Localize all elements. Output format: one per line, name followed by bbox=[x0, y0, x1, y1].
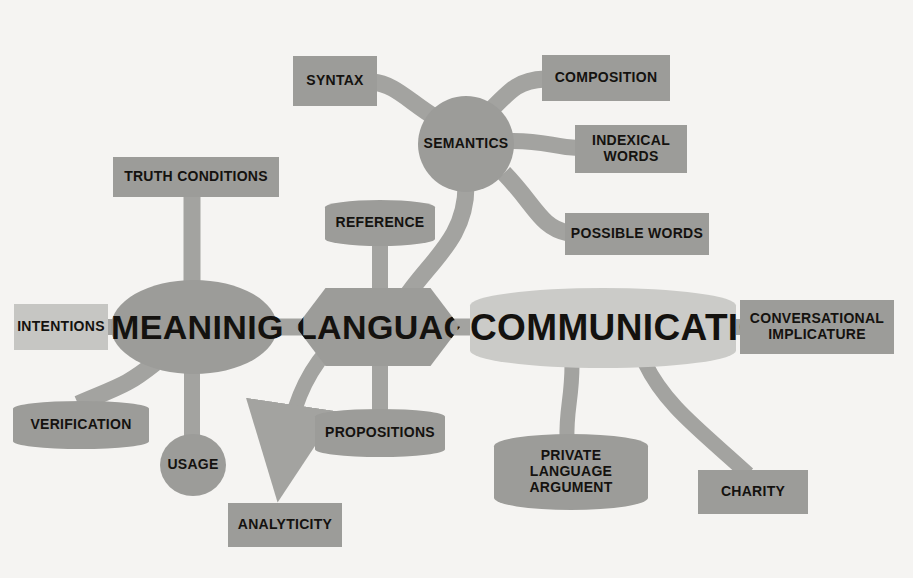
node-verification-label: VERIFICATION bbox=[13, 417, 149, 433]
node-semantics[interactable]: SEMANTICS bbox=[418, 96, 514, 192]
node-verification[interactable]: VERIFICATION bbox=[13, 401, 149, 449]
node-intentions-label: INTENTIONS bbox=[14, 319, 108, 335]
node-propositions-label: PROPOSITIONS bbox=[315, 425, 445, 441]
node-meaning[interactable]: MEANINIG bbox=[111, 280, 277, 374]
node-private-language-argument-label: PRIVATE LANGUAGE ARGUMENT bbox=[494, 448, 648, 495]
edge-meaning-verification bbox=[78, 363, 155, 404]
mindmap-canvas: SEMANTICS SYNTAX COMPOSITION INDEXICAL W… bbox=[0, 0, 913, 578]
node-charity[interactable]: CHARITY bbox=[698, 470, 808, 514]
edge-communication-private-language bbox=[567, 364, 572, 440]
edge-semantics-indexical bbox=[508, 141, 578, 148]
node-language-label: LANGUAGE bbox=[296, 308, 460, 346]
node-truth-conditions[interactable]: TRUTH CONDITIONS bbox=[113, 157, 279, 197]
node-conversational-implicature[interactable]: CONVERSATIONAL IMPLICATURE bbox=[740, 300, 894, 354]
node-syntax-label: SYNTAX bbox=[293, 73, 377, 89]
node-language[interactable]: LANGUAGE bbox=[296, 288, 460, 366]
node-propositions[interactable]: PROPOSITIONS bbox=[315, 409, 445, 457]
node-analyticity[interactable]: ANALYTICITY bbox=[228, 503, 342, 547]
node-composition-label: COMPOSITION bbox=[542, 70, 670, 86]
node-analyticity-label: ANALYTICITY bbox=[228, 517, 342, 533]
node-meaning-label: MEANINIG bbox=[111, 308, 277, 346]
node-intentions[interactable]: INTENTIONS bbox=[14, 304, 108, 350]
edge-semantics-syntax bbox=[372, 82, 436, 118]
node-usage-label: USAGE bbox=[160, 457, 226, 473]
edge-semantics-possible bbox=[504, 173, 568, 233]
node-conversational-implicature-label: CONVERSATIONAL IMPLICATURE bbox=[740, 311, 894, 342]
node-private-language-argument[interactable]: PRIVATE LANGUAGE ARGUMENT bbox=[494, 434, 648, 510]
edge-communication-charity bbox=[645, 363, 748, 474]
node-communication-label: COMMUNICATION bbox=[470, 307, 736, 348]
node-indexical-words[interactable]: INDEXICAL WORDS bbox=[575, 125, 687, 173]
node-reference-label: REFERENCE bbox=[325, 215, 435, 231]
node-indexical-words-label: INDEXICAL WORDS bbox=[575, 133, 687, 164]
node-syntax[interactable]: SYNTAX bbox=[293, 56, 377, 106]
node-semantics-label: SEMANTICS bbox=[418, 136, 514, 152]
node-possible-words-label: POSSIBLE WORDS bbox=[565, 226, 709, 242]
node-charity-label: CHARITY bbox=[698, 484, 808, 500]
node-truth-conditions-label: TRUTH CONDITIONS bbox=[113, 169, 279, 185]
node-communication[interactable]: COMMUNICATION bbox=[470, 288, 736, 368]
node-composition[interactable]: COMPOSITION bbox=[542, 55, 670, 101]
node-usage[interactable]: USAGE bbox=[160, 434, 226, 496]
node-reference[interactable]: REFERENCE bbox=[325, 200, 435, 246]
node-possible-words[interactable]: POSSIBLE WORDS bbox=[565, 213, 709, 255]
